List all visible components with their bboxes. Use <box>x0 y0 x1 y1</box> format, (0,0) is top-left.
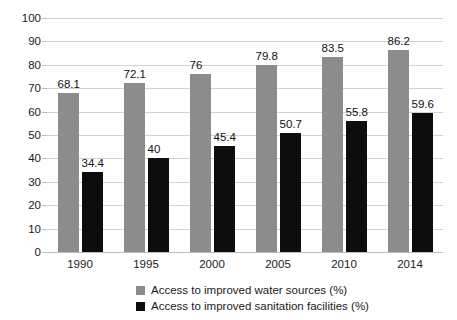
bar-value-label: 76 <box>190 59 203 71</box>
bar-value-label: 79.8 <box>256 50 278 62</box>
bar-value-label: 72.1 <box>124 68 146 80</box>
y-axis-tick-label: 0 <box>5 246 41 258</box>
bar-groups-layer: 68.134.472.1407645.479.850.783.555.886.2… <box>47 18 443 252</box>
y-axis-tick-label: 10 <box>5 223 41 235</box>
bar <box>388 50 409 252</box>
y-axis-tick-label: 60 <box>5 106 41 118</box>
legend-swatch-icon <box>136 286 145 295</box>
legend-item[interactable]: Access to improved water sources (%) <box>136 283 369 297</box>
y-axis-tick-label: 30 <box>5 176 41 188</box>
bar-value-label: 83.5 <box>322 42 344 54</box>
bar-chart: 0102030405060708090100 68.134.472.140764… <box>0 0 457 320</box>
bar-group: 79.850.7 <box>256 18 301 252</box>
legend-label: Access to improved sanitation facilities… <box>151 300 369 313</box>
x-axis-category-label: 2014 <box>397 258 423 270</box>
bar-value-label: 34.4 <box>82 157 104 169</box>
bar <box>322 57 343 252</box>
bar <box>58 93 79 252</box>
bar <box>82 172 103 252</box>
bar-value-label: 50.7 <box>280 118 302 130</box>
y-axis-tick-label: 50 <box>5 129 41 141</box>
legend-item[interactable]: Access to improved sanitation facilities… <box>136 299 369 313</box>
bar <box>280 133 301 252</box>
bar-value-label: 68.1 <box>58 78 80 90</box>
bar <box>190 74 211 252</box>
bar-value-label: 86.2 <box>388 35 410 47</box>
bar-value-label: 59.6 <box>412 98 434 110</box>
bar-group: 83.555.8 <box>322 18 367 252</box>
bar <box>256 65 277 252</box>
chart-legend: Access to improved water sources (%)Acce… <box>136 283 369 313</box>
x-axis-category-label: 2000 <box>199 258 225 270</box>
y-axis-tick-label: 80 <box>5 59 41 71</box>
bar <box>124 83 145 252</box>
y-axis-tick-label: 20 <box>5 199 41 211</box>
legend-swatch-icon <box>136 302 145 311</box>
plot-area: 0102030405060708090100 68.134.472.140764… <box>47 18 443 252</box>
x-axis-category-label: 1995 <box>133 258 159 270</box>
legend-label: Access to improved water sources (%) <box>151 284 347 297</box>
y-axis-tick-label: 40 <box>5 152 41 164</box>
bar-value-label: 55.8 <box>346 106 368 118</box>
y-axis-tick-label: 100 <box>5 12 41 24</box>
bar-group: 7645.4 <box>190 18 235 252</box>
x-axis-category-label: 2005 <box>265 258 291 270</box>
bar <box>148 158 169 252</box>
y-axis-tick-mark <box>42 252 47 253</box>
y-axis-tick-label: 90 <box>5 35 41 47</box>
bar-group: 72.140 <box>124 18 169 252</box>
gridline <box>47 252 443 253</box>
bar-value-label: 40 <box>148 143 161 155</box>
bar <box>412 113 433 252</box>
x-axis-labels: 199019952000200520102014 <box>47 258 443 276</box>
bar <box>214 146 235 252</box>
bar-group: 86.259.6 <box>388 18 433 252</box>
y-axis-tick-label: 70 <box>5 82 41 94</box>
bar-value-label: 45.4 <box>214 131 236 143</box>
x-axis-category-label: 1990 <box>67 258 93 270</box>
bar-group: 68.134.4 <box>58 18 103 252</box>
bar <box>346 121 367 252</box>
x-axis-category-label: 2010 <box>331 258 357 270</box>
